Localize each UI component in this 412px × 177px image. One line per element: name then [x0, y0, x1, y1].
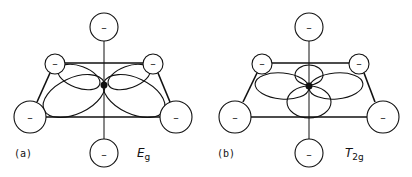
- ligand-back-right: –: [143, 54, 163, 74]
- left-edge: [37, 73, 50, 102]
- ligand-back-left: –: [252, 54, 272, 74]
- svg-text:–: –: [101, 148, 107, 161]
- svg-text:–: –: [259, 57, 265, 70]
- panel-a: – – – – – – (a) Eg: [14, 13, 192, 167]
- ligand-front-right: –: [160, 101, 192, 133]
- ligand-back-left: –: [45, 54, 65, 74]
- panel-label-a: (a): [14, 148, 32, 159]
- svg-text:–: –: [27, 111, 33, 124]
- svg-text:–: –: [232, 111, 238, 124]
- ligand-front-left: –: [219, 101, 251, 133]
- panel-b: – – – – – – (b) T2g: [217, 13, 399, 167]
- ligand-top: –: [90, 13, 118, 41]
- left-edge: [243, 73, 257, 102]
- octahedral-field-diagram: – – – – – – (a) Eg: [0, 0, 412, 177]
- ligand-top: –: [295, 13, 323, 41]
- right-edge: [158, 73, 170, 102]
- ligand-back-right: –: [349, 54, 369, 74]
- ligand-front-right: –: [367, 101, 399, 133]
- ligand-bottom: –: [295, 139, 323, 167]
- ligand-bottom: –: [90, 139, 118, 167]
- metal-center-dot: [306, 83, 313, 90]
- panel-label-b: (b): [217, 148, 235, 159]
- symmetry-label-t2g: T2g: [345, 146, 364, 162]
- right-edge: [364, 73, 375, 102]
- svg-text:–: –: [380, 111, 386, 124]
- svg-text:–: –: [173, 111, 179, 124]
- svg-text:–: –: [52, 57, 58, 70]
- svg-text:–: –: [150, 57, 156, 70]
- svg-text:–: –: [101, 21, 107, 34]
- metal-center-dot: [101, 82, 108, 89]
- svg-text:–: –: [306, 148, 312, 161]
- svg-text:–: –: [306, 21, 312, 34]
- ligand-front-left: –: [14, 101, 46, 133]
- svg-text:–: –: [356, 57, 362, 70]
- symmetry-label-eg: Eg: [137, 146, 150, 162]
